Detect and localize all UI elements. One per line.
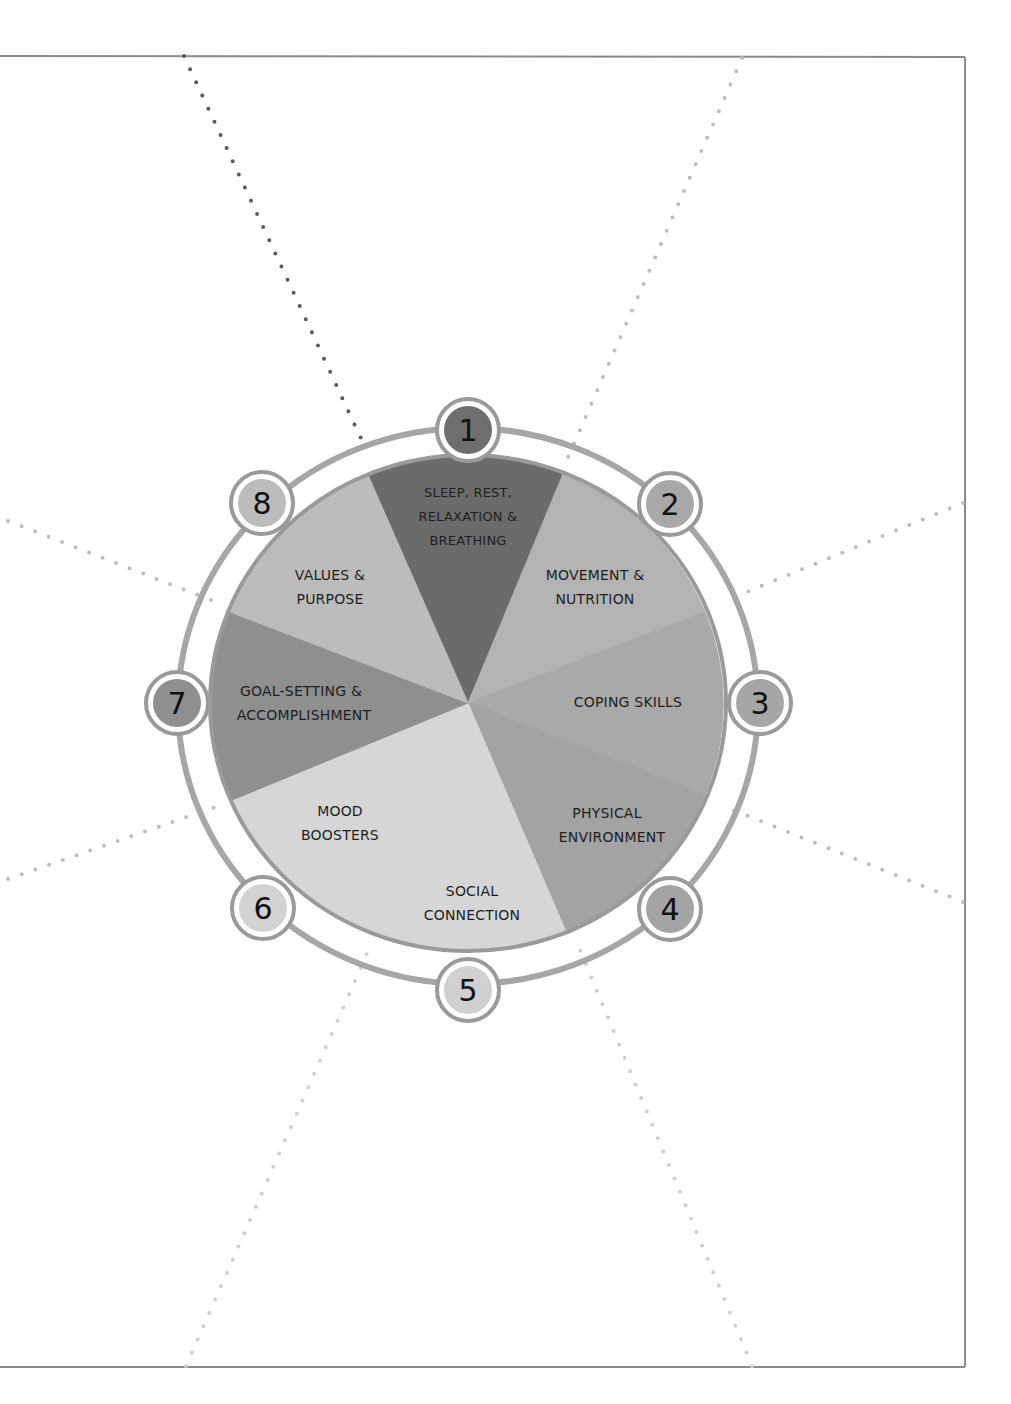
ray-6 [186,942,372,1366]
segment-label-1: SLEEP, REST, RELAXATION & BREATHING [419,485,518,548]
badge-number: 1 [458,413,477,448]
svg-text:GOAL-SETTING &: GOAL-SETTING & [240,683,362,699]
ray-3 [732,503,963,598]
svg-text:ENVIRONMENT: ENVIRONMENT [559,829,666,845]
badge-3: 3 [729,672,791,734]
ray-2 [566,58,742,462]
svg-text:ACCOMPLISHMENT: ACCOMPLISHMENT [237,707,372,723]
ray-5 [580,950,752,1366]
svg-text:BREATHING: BREATHING [429,533,506,548]
badge-5: 5 [437,959,499,1021]
badge-4: 4 [639,878,701,940]
wellness-wheel-diagram: SLEEP, REST, RELAXATION & BREATHING MOVE… [0,0,1011,1404]
svg-text:NUTRITION: NUTRITION [555,591,634,607]
segment-label-3: COPING SKILLS [574,694,682,710]
badge-number: 5 [458,973,477,1008]
ray-4 [728,808,963,902]
badge-number: 2 [660,487,679,522]
badge-1: 1 [437,399,499,461]
badge-number: 8 [252,486,271,521]
badge-number: 7 [167,686,186,721]
badge-number: 6 [253,891,272,926]
svg-text:CONNECTION: CONNECTION [424,907,521,923]
badge-7: 7 [146,672,208,734]
ray-7 [8,807,216,879]
svg-text:VALUES &: VALUES & [295,567,365,583]
svg-text:RELAXATION &: RELAXATION & [419,509,518,524]
badge-number: 4 [660,892,679,927]
svg-text:BOOSTERS: BOOSTERS [301,827,379,843]
svg-text:SOCIAL: SOCIAL [446,883,498,899]
badge-8: 8 [231,472,293,534]
svg-text:PHYSICAL: PHYSICAL [572,805,641,821]
svg-text:SLEEP, REST,: SLEEP, REST, [424,485,512,500]
svg-text:MOOD: MOOD [317,803,363,819]
svg-text:MOVEMENT &: MOVEMENT & [546,567,645,583]
badge-number: 3 [750,686,769,721]
svg-text:COPING SKILLS: COPING SKILLS [574,694,682,710]
ray-1-dark [184,56,364,445]
badge-2: 2 [639,473,701,535]
badge-6: 6 [232,877,294,939]
ray-8 [8,521,216,602]
svg-text:PURPOSE: PURPOSE [296,591,363,607]
